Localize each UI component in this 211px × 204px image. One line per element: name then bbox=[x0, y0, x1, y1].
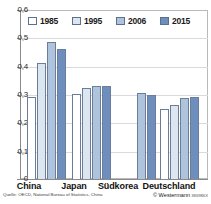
bar-japan-2006[interactable] bbox=[92, 86, 101, 179]
bar-group-japan bbox=[72, 10, 111, 179]
x-axis-line bbox=[20, 179, 208, 180]
bar-deutschland-2015[interactable] bbox=[190, 97, 199, 179]
bar-deutschland-2006[interactable] bbox=[180, 98, 189, 179]
bar-japan-1985[interactable] bbox=[72, 94, 81, 179]
bar-china-2015[interactable] bbox=[57, 49, 66, 179]
footer: Quelle: OECD, National Bureau of Statist… bbox=[0, 192, 211, 204]
copyright-note: © Westermann386986X bbox=[153, 192, 208, 199]
bar-südkorea-2015[interactable] bbox=[147, 95, 156, 179]
x-label-deutschland: Deutschland bbox=[138, 181, 200, 191]
bar-group-china bbox=[27, 10, 66, 179]
bar-japan-1995[interactable] bbox=[82, 88, 91, 179]
bar-china-1995[interactable] bbox=[37, 63, 46, 179]
bar-group-suedkorea bbox=[117, 10, 156, 179]
x-label-china: China bbox=[6, 181, 52, 191]
publisher-code: 386986X bbox=[191, 193, 208, 198]
source-note: Quelle: OECD, National Bureau of Statist… bbox=[3, 192, 102, 198]
x-label-japan: Japan bbox=[51, 181, 97, 191]
copyright-text: © Westermann bbox=[153, 192, 190, 198]
bar-china-1985[interactable] bbox=[27, 97, 36, 179]
bar-group-deutschland bbox=[160, 10, 199, 179]
x-label-suedkorea: Südkorea bbox=[93, 181, 143, 191]
bar-südkorea-2006[interactable] bbox=[137, 93, 146, 179]
bar-china-2006[interactable] bbox=[47, 42, 56, 179]
bar-japan-2015[interactable] bbox=[102, 86, 111, 179]
bar-chart: 0,6 0,5 0,4 0,3 0,2 0,1 0 1985 1995 2006… bbox=[0, 0, 211, 204]
bar-deutschland-1985[interactable] bbox=[160, 109, 169, 179]
bars-layer bbox=[21, 10, 208, 179]
bar-deutschland-1995[interactable] bbox=[170, 105, 179, 179]
